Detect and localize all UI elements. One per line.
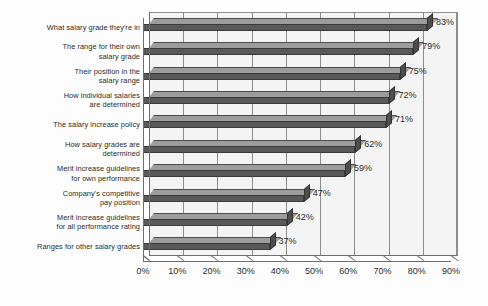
bar (143, 213, 293, 226)
value-axis-tick-labels: 0%10%20%30%40%50%60%70%80%90% (143, 266, 463, 282)
bar-front-face (143, 121, 386, 128)
bar-top-face (149, 213, 298, 219)
bar-chart: What salary grade they're inThe range fo… (0, 0, 488, 306)
value-axis-tick-label: 0% (136, 266, 149, 276)
category-label: Their position in the salary range (2, 67, 140, 85)
bar-front-face (143, 195, 304, 202)
bar-top-face (149, 189, 315, 195)
bar (143, 42, 419, 55)
gridline (457, 12, 458, 256)
category-label: Merit increase guidelines for own perfor… (2, 164, 140, 182)
bar (143, 18, 433, 31)
plot-area: 83%79%75%72%71%62%59%47%42%37% (143, 12, 457, 262)
bar-front-face (143, 170, 345, 177)
bar-value-label: 71% (395, 114, 413, 124)
bar-top-face (149, 140, 366, 146)
bar-value-label: 72% (398, 90, 416, 100)
category-label: How salary grades are determined (2, 140, 140, 158)
value-axis-tick-label: 10% (168, 266, 186, 276)
category-label: How individual salaries are determined (2, 91, 140, 109)
value-axis-tick-label: 50% (305, 266, 323, 276)
category-axis-back-line (149, 255, 457, 256)
category-label: Company's competitive pay position (2, 189, 140, 207)
bar-end-cap (355, 135, 361, 153)
bar-front-face (143, 24, 427, 31)
bar-value-label: 75% (409, 66, 427, 76)
bar-value-label: 42% (296, 212, 314, 222)
bar-value-label: 79% (422, 41, 440, 51)
bar-front-face (143, 219, 287, 226)
bar-value-label: 62% (364, 139, 382, 149)
bar-top-face (149, 164, 356, 170)
value-axis-tick-label: 90% (442, 266, 460, 276)
value-axis-tick-label: 40% (271, 266, 289, 276)
value-axis-tick-label: 80% (408, 266, 426, 276)
bar-value-label: 37% (279, 236, 297, 246)
category-label: What salary grade they're in (2, 23, 140, 32)
bar (143, 164, 351, 177)
value-axis-back-line (149, 12, 150, 256)
bar (143, 189, 310, 202)
bar-top-face (149, 42, 424, 48)
category-label: The salary increase policy (2, 120, 140, 129)
category-label: Merit increase guidelines for all perfor… (2, 213, 140, 231)
bar-top-face (149, 18, 438, 24)
bar-end-cap (345, 159, 351, 177)
bar (143, 237, 276, 250)
bar-value-label: 47% (313, 188, 331, 198)
bar (143, 115, 392, 128)
value-axis-tick-label: 60% (339, 266, 357, 276)
value-axis-tick-label: 20% (202, 266, 220, 276)
bar-front-face (143, 243, 270, 250)
bar-end-cap (413, 37, 419, 55)
bar-front-face (143, 48, 413, 55)
category-label: Ranges for other salary grades (2, 242, 140, 251)
bar-front-face (143, 97, 389, 104)
bar-value-label: 59% (354, 163, 372, 173)
bar-end-cap (386, 110, 392, 128)
bar-value-label: 83% (436, 17, 454, 27)
bar (143, 140, 361, 153)
category-label: The range for their own salary grade (2, 42, 140, 60)
bar-top-face (149, 67, 411, 73)
value-axis-front-line (143, 18, 144, 262)
category-axis-labels: What salary grade they're inThe range fo… (0, 12, 140, 262)
bar (143, 91, 395, 104)
bar-end-cap (270, 232, 276, 250)
category-axis-front-line (143, 261, 451, 262)
bar (143, 67, 406, 80)
bar-end-cap (389, 86, 395, 104)
bar-front-face (143, 146, 355, 153)
value-axis-tick-label: 30% (237, 266, 255, 276)
value-axis-tick-label: 70% (374, 266, 392, 276)
gridline-depth-tick (451, 255, 459, 261)
bar-top-face (149, 237, 281, 243)
bar-top-face (149, 115, 397, 121)
bar-top-face (149, 91, 400, 97)
bar-front-face (143, 73, 400, 80)
